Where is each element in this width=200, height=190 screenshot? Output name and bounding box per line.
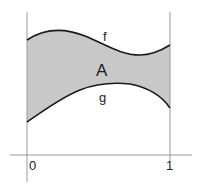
label-a: A bbox=[96, 61, 108, 80]
tick-label-1: 1 bbox=[166, 158, 173, 173]
tick-label-0: 0 bbox=[29, 158, 36, 173]
label-f: f bbox=[103, 29, 107, 44]
area-between-curves-diagram: f A g 0 1 bbox=[0, 0, 200, 190]
label-g: g bbox=[99, 90, 106, 105]
